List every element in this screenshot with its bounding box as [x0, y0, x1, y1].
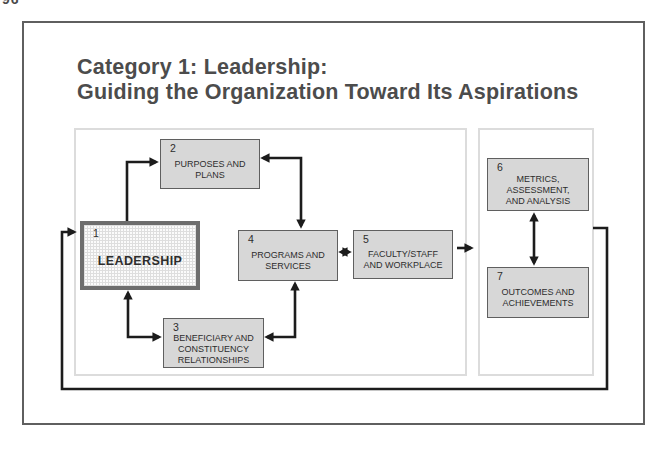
box-3-number: 3: [173, 321, 261, 333]
box-1-number: 1: [93, 227, 194, 239]
arrow-leadership-beneficiary-two-way: [128, 293, 159, 337]
box-6-number: 6: [497, 161, 586, 173]
box-2-purposes-and-plans: 2 PURPOSES AND PLANS: [160, 139, 260, 189]
box-3-beneficiary-constituency: 3 BENEFICIARY AND CONSTITUENCY RELATIONS…: [163, 318, 264, 368]
box-7-number: 7: [497, 270, 586, 282]
box-2-label: PURPOSES AND PLANS: [163, 154, 257, 185]
arrow-purposes-programs-two-way: [263, 158, 301, 226]
box-3-label: BENEFICIARY AND CONSTITUENCY RELATIONSHI…: [166, 333, 261, 366]
box-6-metrics-assessment-analysis: 6 METRICS, ASSESSMENT, AND ANALYSIS: [487, 158, 589, 211]
box-5-faculty-staff-workplace: 5 FACULTY/STAFF AND WORKPLACE: [353, 230, 453, 279]
page: 96 Category 1: Leadership: Guiding the O…: [0, 0, 660, 453]
box-7-outcomes-achievements: 7 OUTCOMES AND ACHIEVEMENTS: [487, 267, 589, 318]
arrow-leadership-to-purposes: [127, 162, 156, 221]
box-4-number: 4: [248, 233, 335, 245]
box-5-label: FACULTY/STAFF AND WORKPLACE: [356, 245, 450, 275]
box-6-label: METRICS, ASSESSMENT, AND ANALYSIS: [490, 173, 586, 207]
arrow-programs-beneficiary-two-way: [267, 284, 295, 337]
box-7-label: OUTCOMES AND ACHIEVEMENTS: [490, 282, 586, 314]
box-1-leadership: 1 LEADERSHIP: [80, 221, 200, 290]
box-4-programs-and-services: 4 PROGRAMS AND SERVICES: [238, 230, 338, 281]
box-5-number: 5: [363, 233, 450, 245]
box-4-label: PROGRAMS AND SERVICES: [241, 245, 335, 277]
box-1-label: LEADERSHIP: [86, 239, 194, 283]
box-2-number: 2: [170, 142, 257, 154]
